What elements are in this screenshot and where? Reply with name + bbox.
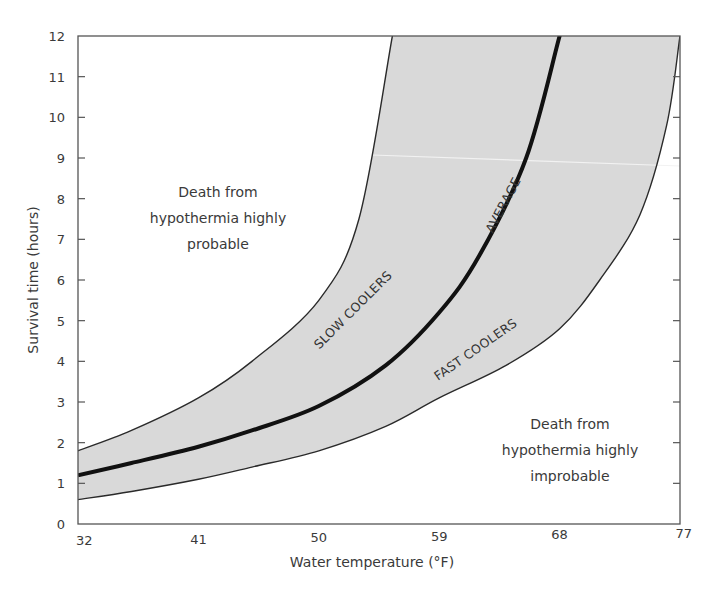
annotation-probable: Death from hypothermia highly probable [150,184,286,252]
y-tick-label: 12 [48,29,65,44]
x-axis: 324150596877 [76,526,692,549]
x-tick-label: 32 [76,533,93,548]
y-tick-label: 5 [57,314,65,329]
annotation-line: Death from [530,416,609,432]
y-tick-label: 0 [57,517,65,532]
annotation-line: Death from [178,184,257,200]
y-tick-label: 8 [57,192,65,207]
annotation-line: probable [187,236,249,252]
y-tick-label: 10 [48,110,65,125]
y-tick-label: 7 [57,232,65,247]
y-tick-label: 3 [57,395,65,410]
y-tick-label: 6 [57,273,65,288]
y-tick-label: 1 [57,476,65,491]
annotation-line: hypothermia highly [502,442,638,458]
x-tick-label: 68 [551,527,568,542]
y-tick-label: 11 [48,70,65,85]
y-axis-title: Survival time (hours) [25,206,41,353]
x-tick-label: 77 [675,526,692,541]
y-tick-label: 4 [57,354,65,369]
annotation-line: hypothermia highly [150,210,286,226]
survival-chart: 0123456789101112 324150596877 Survival t… [0,0,711,593]
annotation-improbable: Death from hypothermia highly improbable [502,416,638,484]
x-tick-label: 59 [431,529,448,544]
x-tick-label: 41 [190,532,207,547]
x-axis-title: Water temperature (°F) [290,554,454,570]
x-tick-label: 50 [311,530,328,545]
annotation-line: improbable [530,468,609,484]
y-tick-label: 9 [57,151,65,166]
y-tick-label: 2 [57,436,65,451]
